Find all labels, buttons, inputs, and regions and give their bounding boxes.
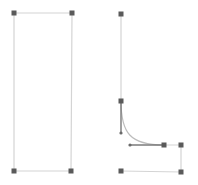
anchor-point-handle[interactable] <box>179 143 184 148</box>
path-segment <box>121 145 181 172</box>
anchor-point-handle[interactable] <box>162 143 167 148</box>
anchor-point-handle[interactable] <box>12 11 17 16</box>
anchor-point-handle[interactable] <box>119 12 124 17</box>
anchor-point-handle[interactable] <box>119 169 124 174</box>
rectangle-outline <box>14 13 72 171</box>
bezier-control-point[interactable] <box>119 131 122 134</box>
vector-canvas <box>0 0 198 185</box>
anchor-point-handle[interactable] <box>119 99 124 104</box>
anchor-point-handle[interactable] <box>12 169 17 174</box>
right-l-shaped-path[interactable] <box>119 12 184 175</box>
left-rectangle-path[interactable] <box>12 11 75 174</box>
anchor-point-handle[interactable] <box>179 170 184 175</box>
vector-drawing <box>0 0 198 185</box>
bezier-curve-segment <box>121 101 164 145</box>
anchor-point-handle[interactable] <box>70 11 75 16</box>
bezier-control-point[interactable] <box>128 143 131 146</box>
anchor-point-handle[interactable] <box>69 169 74 174</box>
